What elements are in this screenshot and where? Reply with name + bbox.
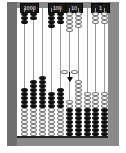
arrow-down-icon: [67, 77, 73, 82]
held-bead[interactable]: [61, 70, 68, 74]
bead-white[interactable]: [101, 20, 108, 24]
held-bead[interactable]: [71, 70, 78, 74]
bead-white[interactable]: [66, 28, 73, 32]
bead-black[interactable]: [57, 20, 64, 24]
bead-black[interactable]: [48, 24, 55, 28]
bead-black[interactable]: [30, 16, 37, 20]
abacus-left-bar: [7, 2, 17, 146]
bottom-rail: [17, 136, 108, 138]
bead-white[interactable]: [92, 20, 99, 24]
bead-black[interactable]: [21, 20, 28, 24]
bead-white[interactable]: [75, 24, 82, 28]
